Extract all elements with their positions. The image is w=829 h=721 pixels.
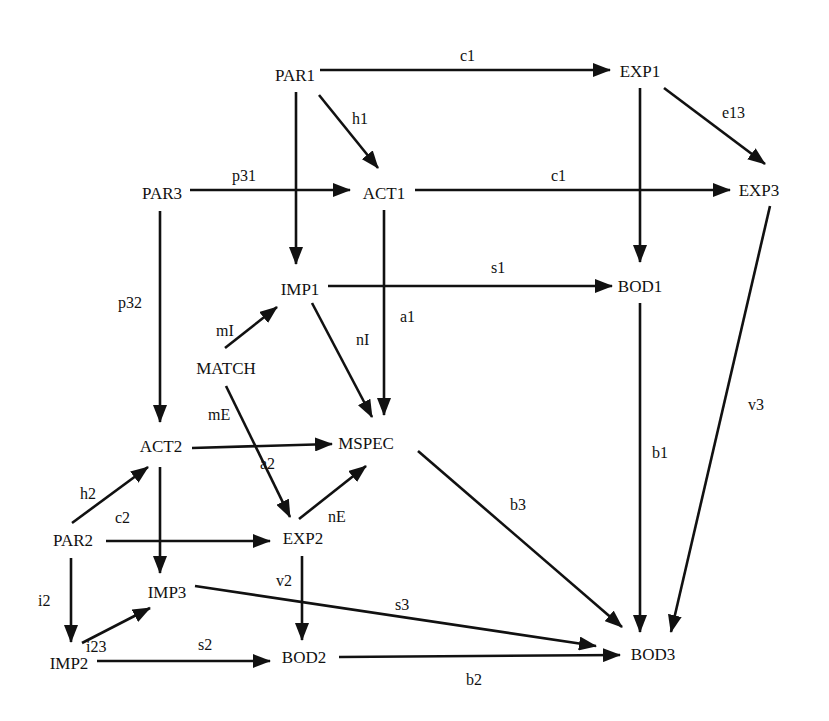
edge-label-ni: nI xyxy=(356,331,369,348)
edge-label-c2: c2 xyxy=(115,509,130,526)
edge-label-i23: i23 xyxy=(86,638,106,655)
edge-label-a2: a2 xyxy=(260,455,275,472)
node-exp2: EXP2 xyxy=(283,529,324,548)
node-mspec: MSPEC xyxy=(338,434,394,453)
edge-label-c1: c1 xyxy=(460,47,475,64)
edge-label-mi: mI xyxy=(216,322,234,339)
edge-act2-to-mspec xyxy=(192,444,332,448)
node-imp1: IMP1 xyxy=(281,280,320,299)
edge-label-i2: i2 xyxy=(38,592,50,609)
edge-imp1-to-mspec xyxy=(312,303,372,417)
edge-label-h2: h2 xyxy=(80,485,96,502)
edge-mspec-to-bod3 xyxy=(418,451,622,627)
edge-label-p32: p32 xyxy=(118,294,142,312)
edge-par1-to-act1 xyxy=(319,95,378,168)
node-act1: ACT1 xyxy=(363,184,406,203)
edge-label-b2: b2 xyxy=(466,671,482,688)
edge-label-ne: nE xyxy=(328,508,346,525)
node-match: MATCH xyxy=(196,359,256,378)
node-bod1: BOD1 xyxy=(618,277,662,296)
edge-exp1-to-exp3 xyxy=(664,88,765,164)
edges-layer xyxy=(71,70,770,661)
edge-label-s3: s3 xyxy=(395,596,409,613)
node-par3: PAR3 xyxy=(142,184,182,203)
edge-label-s1: s1 xyxy=(491,259,505,276)
node-exp1: EXP1 xyxy=(620,62,661,81)
edge-label-me: mE xyxy=(208,406,230,423)
node-par2: PAR2 xyxy=(53,531,93,550)
edge-bod2-to-bod3 xyxy=(339,655,620,657)
node-imp2: IMP2 xyxy=(50,654,89,673)
edge-label-v3: v3 xyxy=(748,396,764,413)
node-bod3: BOD3 xyxy=(631,645,675,664)
edge-label-c1: c1 xyxy=(551,167,566,184)
node-bod2: BOD2 xyxy=(282,648,326,667)
node-exp3: EXP3 xyxy=(739,181,780,200)
node-act2: ACT2 xyxy=(140,437,183,456)
edge-exp3-to-bod3 xyxy=(671,206,770,632)
edge-label-b3: b3 xyxy=(510,496,526,513)
path-diagram: c1h1e13p31p32c1a1v3s1nIb1mImEa2b3h2c2nEv… xyxy=(0,0,829,721)
node-par1: PAR1 xyxy=(275,66,315,85)
node-imp3: IMP3 xyxy=(148,583,187,602)
edge-label-a1: a1 xyxy=(400,308,415,325)
edge-label-b1: b1 xyxy=(652,444,668,461)
edge-label-e13: e13 xyxy=(722,104,745,121)
edge-label-s2: s2 xyxy=(198,636,212,653)
edge-imp3-to-bod3 xyxy=(195,586,596,646)
edge-label-p31: p31 xyxy=(232,167,256,185)
edge-label-h1: h1 xyxy=(352,110,368,127)
edge-match-to-exp2 xyxy=(226,386,290,517)
edge-label-v2: v2 xyxy=(276,572,292,589)
